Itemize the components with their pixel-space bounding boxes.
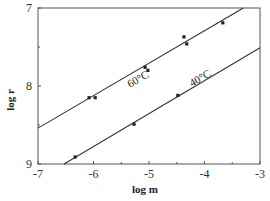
chart: -7-6-5-4-3789 60°C 40°C log m log r: [0, 0, 270, 201]
axis-ticks: -7-6-5-4-3789: [26, 1, 265, 181]
plot-frame: [38, 8, 260, 164]
data-point: [146, 69, 149, 72]
data-point: [176, 94, 179, 97]
y-axis-title: log r: [4, 89, 16, 111]
fit-line-1: [64, 48, 260, 164]
data-point: [74, 155, 77, 158]
data-point: [94, 96, 97, 99]
data-point: [182, 35, 185, 38]
data-point: [185, 42, 188, 45]
plot-border: [38, 8, 260, 164]
y-tick-label: 9: [26, 157, 32, 171]
label-40c: 40°C: [187, 67, 213, 89]
data-point: [132, 123, 135, 126]
x-tick-label: -3: [255, 167, 265, 181]
fit-lines: [38, 8, 260, 164]
data-point: [87, 96, 90, 99]
y-tick-label: 8: [26, 79, 32, 93]
x-axis-title: log m: [132, 183, 158, 195]
x-tick-label: -6: [89, 167, 99, 181]
data-point: [221, 21, 224, 24]
x-tick-label: -7: [33, 167, 43, 181]
data-points: [74, 21, 225, 158]
y-tick-label: 7: [26, 1, 32, 15]
x-tick-label: -5: [144, 167, 154, 181]
x-tick-label: -4: [200, 167, 210, 181]
fit-line-0: [38, 8, 243, 128]
